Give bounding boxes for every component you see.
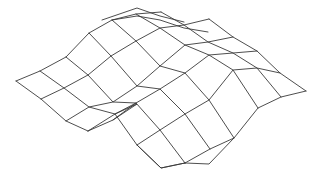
mesh-line [136, 14, 258, 108]
mesh-line [16, 12, 161, 81]
mesh-edges [16, 8, 306, 168]
mesh-line [66, 37, 233, 121]
mesh-line [112, 16, 208, 32]
mesh-line [112, 20, 234, 138]
mesh-line [16, 81, 88, 131]
mesh-line [185, 91, 306, 163]
mesh-line [88, 51, 257, 131]
mesh-line [113, 103, 136, 120]
wireframe-surface-diagram [0, 0, 323, 196]
mesh-line [89, 33, 210, 149]
mesh-line [137, 68, 280, 145]
mesh-line [185, 138, 234, 164]
mesh-line [209, 19, 306, 91]
mesh-line [137, 145, 185, 168]
mesh-line [40, 71, 185, 168]
mesh-line [161, 12, 281, 97]
